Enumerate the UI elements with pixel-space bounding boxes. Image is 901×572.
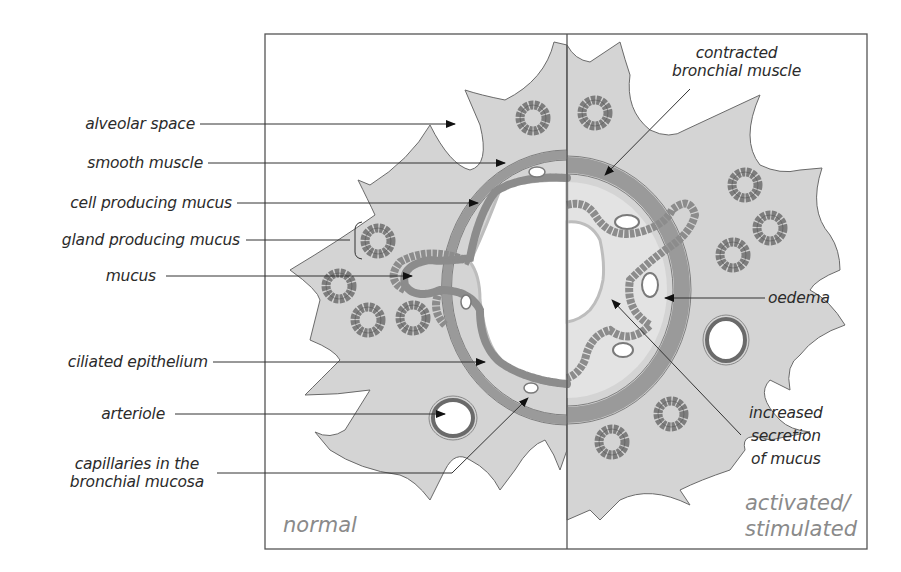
label-alveolar-space: alveolar space xyxy=(85,115,195,133)
panel-label-activated: activated/ stimulated xyxy=(745,490,857,542)
label-increased-line1: increased xyxy=(749,402,823,425)
label-arteriole: arteriole xyxy=(101,405,165,423)
arteriole-right xyxy=(707,319,745,361)
label-contracted-bronchial-muscle: contracted bronchial muscle xyxy=(672,44,801,80)
label-increased-line2: secretion xyxy=(749,425,823,448)
label-ciliated-epithelium: ciliated epithelium xyxy=(68,353,208,371)
label-gland-producing-mucus: gland producing mucus xyxy=(62,231,240,249)
label-contracted-line2: bronchial muscle xyxy=(672,62,801,80)
label-smooth-muscle: smooth muscle xyxy=(87,154,203,172)
arteriole-left xyxy=(433,400,473,436)
label-capillaries-line2: bronchial mucosa xyxy=(70,473,204,491)
label-capillaries-line1: capillaries in the xyxy=(70,455,204,473)
label-increased-secretion: increased secretion of mucus xyxy=(749,402,823,471)
panel-label-activated-line1: activated/ xyxy=(745,490,857,516)
label-cell-producing-mucus: cell producing mucus xyxy=(70,194,232,212)
panel-label-activated-line2: stimulated xyxy=(745,516,857,542)
label-contracted-line1: contracted xyxy=(672,44,801,62)
label-increased-line3: of mucus xyxy=(749,448,823,471)
label-oedema: oedema xyxy=(768,289,830,307)
label-capillaries: capillaries in the bronchial mucosa xyxy=(70,455,204,491)
label-mucus: mucus xyxy=(106,267,156,285)
panel-label-normal: normal xyxy=(283,513,357,537)
